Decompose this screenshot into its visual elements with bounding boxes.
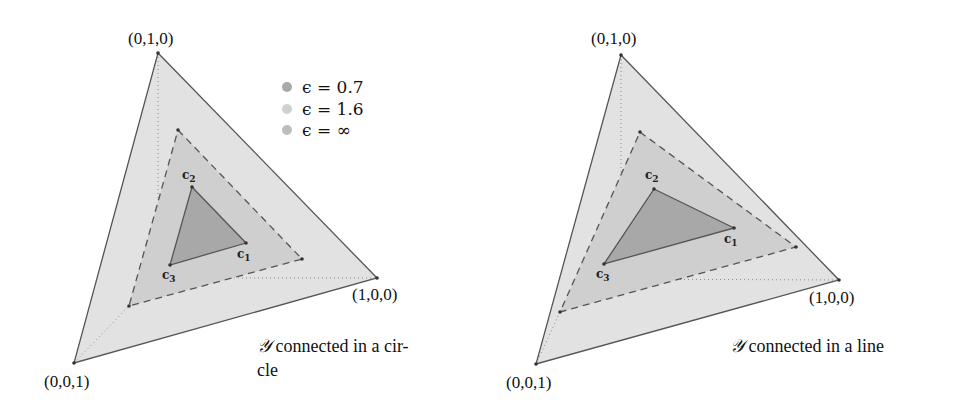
right-vertex-top-label: (0,1,0) — [591, 29, 636, 48]
vertex-dot — [176, 128, 180, 132]
legend-label-eps-1.6: ϵ = 1.6 — [302, 99, 364, 119]
legend-swatch-eps-0.7 — [282, 82, 292, 92]
vertex-dot — [156, 51, 160, 55]
left-vertex-top-label: (0,1,0) — [128, 29, 173, 48]
vertex-dot — [638, 130, 642, 134]
right-vertex-right-label: (1,0,0) — [809, 288, 854, 307]
left-caption-line2: cle — [257, 360, 278, 380]
vertex-dot — [300, 257, 304, 261]
vertex-dot — [602, 262, 606, 266]
vertex-dot — [619, 53, 623, 57]
legend-swatch-eps-1.6 — [282, 104, 292, 114]
vertex-dot — [190, 185, 194, 189]
vertex-dot — [168, 263, 172, 267]
vertex-dot — [652, 187, 656, 191]
vertex-dot — [534, 362, 538, 366]
legend-label-eps-inf: ϵ = ∞ — [302, 120, 351, 140]
left-vertex-right-label: (1,0,0) — [352, 285, 397, 304]
vertex-dot — [244, 241, 248, 245]
vertex-dot — [732, 226, 736, 230]
legend-label-eps-0.7: ϵ = 0.7 — [302, 77, 364, 97]
vertex-dot — [837, 278, 841, 282]
vertex-dot — [127, 304, 131, 308]
left-caption-line1: 𝒴 connected in a cir- — [257, 336, 409, 356]
vertex-dot — [558, 310, 562, 314]
legend-swatch-eps-inf — [282, 125, 292, 135]
vertex-dot — [794, 245, 798, 249]
right-vertex-bottom-label: (0,0,1) — [506, 373, 551, 392]
legend: ϵ = 0.7 ϵ = 1.6 ϵ = ∞ — [282, 77, 364, 140]
right-caption: 𝒴 connected in a line — [730, 336, 884, 356]
left-vertex-bottom-label: (0,0,1) — [44, 372, 89, 391]
right-simplex: (0,1,0) (1,0,0) (0,0,1) c2 c1 c3 𝒴 conne… — [506, 29, 884, 392]
vertex-dot — [72, 361, 76, 365]
simplex-diagram: (0,1,0) (1,0,0) (0,0,1) c2 c1 c3 𝒴 conne… — [0, 0, 974, 417]
vertex-dot — [375, 276, 379, 280]
